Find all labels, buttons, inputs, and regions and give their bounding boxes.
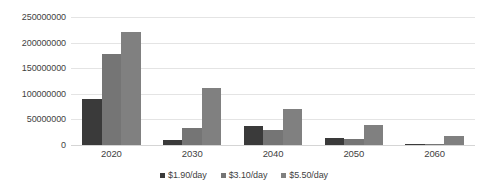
bar-chart: 0500000001000000001500000002000000002500… xyxy=(0,0,488,192)
bar-group xyxy=(233,17,314,145)
bar[interactable] xyxy=(202,88,222,145)
legend-swatch-icon xyxy=(221,173,226,178)
y-axis-tick-label: 100000000 xyxy=(22,89,66,99)
bar[interactable] xyxy=(425,144,445,145)
y-axis-labels: 0500000001000000001500000002000000002500… xyxy=(0,17,66,145)
bar[interactable] xyxy=(102,54,122,145)
bar[interactable] xyxy=(325,138,345,145)
bar[interactable] xyxy=(121,32,141,145)
bar-group-bars xyxy=(233,17,314,145)
x-axis-tick-label: 2060 xyxy=(394,148,475,162)
y-axis-tick-label: 150000000 xyxy=(22,63,66,73)
y-axis-tick-label: 50000000 xyxy=(27,114,66,124)
bar-group-bars xyxy=(313,17,394,145)
legend-item[interactable]: $3.10/day xyxy=(221,170,268,180)
bar[interactable] xyxy=(263,130,283,145)
legend-label: $5.50/day xyxy=(289,170,328,180)
bar[interactable] xyxy=(82,99,102,145)
chart-legend: $1.90/day$3.10/day$5.50/day xyxy=(0,170,488,180)
x-axis-tick-label: 2050 xyxy=(313,148,394,162)
bar[interactable] xyxy=(182,128,202,145)
legend-label: $1.90/day xyxy=(168,170,207,180)
bar-group xyxy=(313,17,394,145)
legend-item[interactable]: $5.50/day xyxy=(281,170,328,180)
legend-label: $3.10/day xyxy=(229,170,268,180)
legend-swatch-icon xyxy=(160,173,165,178)
plot-area xyxy=(71,17,475,145)
bar-group-bars xyxy=(152,17,233,145)
y-axis-tick-label: 250000000 xyxy=(22,12,66,22)
bar[interactable] xyxy=(405,144,425,145)
bar-group-bars xyxy=(394,17,475,145)
bar[interactable] xyxy=(344,139,364,145)
y-axis-tick-label: 0 xyxy=(61,140,66,150)
y-axis-tick-label: 200000000 xyxy=(22,38,66,48)
legend-item[interactable]: $1.90/day xyxy=(160,170,207,180)
bar-group xyxy=(71,17,152,145)
bar-groups xyxy=(71,17,475,145)
bar-group-bars xyxy=(71,17,152,145)
legend-swatch-icon xyxy=(281,173,286,178)
bar-group xyxy=(152,17,233,145)
x-axis-labels: 20202030204020502060 xyxy=(71,148,475,162)
x-axis-tick-label: 2040 xyxy=(233,148,314,162)
bar[interactable] xyxy=(364,125,384,145)
x-axis-tick-label: 2030 xyxy=(152,148,233,162)
bar-group xyxy=(394,17,475,145)
bar[interactable] xyxy=(444,136,464,145)
bar[interactable] xyxy=(283,109,303,145)
x-axis-tick-label: 2020 xyxy=(71,148,152,162)
bar[interactable] xyxy=(163,140,183,145)
bar[interactable] xyxy=(244,126,264,145)
gridline xyxy=(71,145,475,146)
